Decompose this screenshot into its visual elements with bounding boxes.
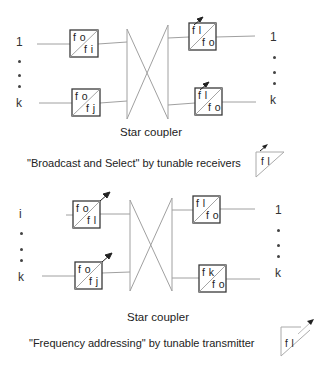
filter-label-bottom: f o: [206, 209, 219, 221]
filter-label-bottom: f o: [202, 36, 215, 48]
filter-label-bottom: f j: [89, 275, 99, 287]
ellipsis-dot: [277, 229, 280, 232]
top-input-label-last: k: [16, 96, 22, 110]
filter-label-bottom: f l: [87, 214, 97, 226]
star-coupler-label-bottom: Star coupler: [127, 311, 189, 323]
ellipsis-dot: [273, 56, 276, 59]
top-output-label-last: k: [270, 93, 276, 107]
filter-label-top: f o: [78, 263, 91, 275]
filter-label-bottom: f o: [212, 278, 225, 290]
ellipsis-dot: [273, 82, 276, 85]
legend-icon-label: f l: [285, 338, 294, 349]
top-input-label-first: 1: [16, 35, 23, 49]
ellipsis-dot: [20, 248, 23, 251]
ellipsis-dot: [277, 244, 280, 247]
ellipsis-dot: [273, 71, 276, 74]
filter-label-top: f l: [198, 89, 208, 101]
filter-label-top: f k: [202, 266, 215, 278]
top-output-label-first: 1: [270, 30, 277, 44]
bottom-input-label-first: i: [19, 207, 22, 221]
filter-label-top: f l: [196, 197, 206, 209]
ellipsis-dot: [18, 60, 21, 63]
filter-label-top: f o: [73, 31, 86, 43]
bottom-output-label-first: 1: [275, 203, 282, 217]
ellipsis-dot: [20, 259, 23, 262]
star-coupler-label-top: Star coupler: [120, 126, 182, 138]
filter-label-top: f l: [192, 24, 202, 36]
bottom-input-label-last: k: [18, 270, 24, 284]
filter-label-top: f o: [76, 202, 89, 214]
bottom-caption: "Frequency addressing" by tunable transm…: [29, 337, 254, 349]
filter-label-bottom: f j: [86, 102, 96, 114]
legend-icon-label: f l: [261, 156, 270, 167]
ellipsis-dot: [20, 232, 23, 235]
top-caption: "Broadcast and Select" by tunable receiv…: [27, 157, 241, 169]
filter-label-bottom: f i: [84, 43, 94, 55]
filter-label-bottom: f o: [208, 101, 221, 113]
bottom-output-label-last: k: [275, 266, 281, 280]
filter-label-top: f o: [75, 90, 88, 102]
ellipsis-dot: [277, 255, 280, 258]
ellipsis-dot: [18, 85, 21, 88]
ellipsis-dot: [18, 74, 21, 77]
